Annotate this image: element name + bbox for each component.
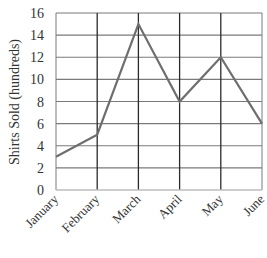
line-chart: 0246810121416 JanuaryFebruaryMarchAprilM… [0,0,267,258]
x-tick-june: June [240,191,267,219]
y-tick-6: 6 [37,117,44,132]
y-tick-14: 14 [30,28,44,43]
x-tick-april: April [155,191,185,221]
horizontal-gridlines [56,13,262,168]
data-series-line [56,24,262,157]
y-tick-2: 2 [37,161,44,176]
x-tick-march: March [109,191,144,226]
y-tick-10: 10 [30,72,44,87]
y-tick-16: 16 [30,6,44,21]
x-tick-february: February [59,191,103,235]
y-tick-12: 12 [30,50,44,65]
y-tick-4: 4 [37,139,44,154]
y-tick-0: 0 [37,183,44,198]
x-tick-may: May [198,191,226,219]
y-axis-label: Shirts Sold (hundreds) [7,39,23,165]
y-axis-tick-labels: 0246810121416 [30,6,44,198]
series-line [56,24,262,157]
x-axis-tick-labels: JanuaryFebruaryMarchAprilMayJune [22,191,267,235]
y-tick-8: 8 [37,95,44,110]
